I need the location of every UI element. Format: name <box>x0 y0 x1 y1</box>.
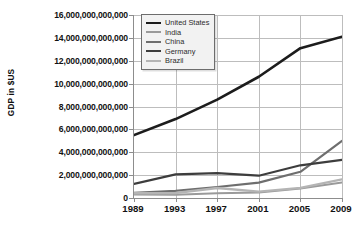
x-tick-label: 1989 <box>122 203 143 214</box>
y-tick-label: 8,000,000,000,000 <box>4 102 128 112</box>
gridline-vertical <box>342 15 343 198</box>
y-tick-label: 16,000,000,000,000 <box>4 10 128 20</box>
legend-label: United States <box>165 18 209 28</box>
y-tick-label: 12,000,000,000,000 <box>4 56 128 66</box>
y-tick-label: 10,000,000,000,000 <box>4 79 128 89</box>
legend-swatch-united-states <box>146 22 161 24</box>
legend-swatch-germany <box>146 50 161 52</box>
x-tick-label: 2009 <box>330 203 351 214</box>
legend-swatch-china <box>146 41 161 43</box>
x-tick-label: 2005 <box>289 203 310 214</box>
legend-item[interactable]: United States <box>146 18 209 28</box>
legend-label: Brazil <box>165 56 183 66</box>
x-tick-label: 2001 <box>247 203 268 214</box>
legend-item[interactable]: Brazil <box>146 56 209 66</box>
legend-label: Germany <box>165 47 195 57</box>
chart-legend: United StatesIndiaChinaGermanyBrazil <box>141 14 215 70</box>
legend-item[interactable]: Germany <box>146 47 209 57</box>
y-axis-tick-labels: 02,000,000,000,0004,000,000,000,0006,000… <box>0 0 128 233</box>
legend-label: China <box>165 37 184 47</box>
y-tick-label: 14,000,000,000,000 <box>4 33 128 43</box>
x-tick-label: 1997 <box>206 203 227 214</box>
y-tick-label: 4,000,000,000,000 <box>4 147 128 157</box>
y-tick-label: 6,000,000,000,000 <box>4 124 128 134</box>
legend-item[interactable]: China <box>146 37 209 47</box>
legend-swatch-india <box>146 31 161 33</box>
legend-label: India <box>165 28 181 38</box>
x-tick-mark <box>342 198 343 202</box>
gdp-line-chart: GDP in $US 02,000,000,000,0004,000,000,0… <box>0 0 364 233</box>
legend-item[interactable]: India <box>146 28 209 38</box>
legend-swatch-brazil <box>146 60 161 62</box>
y-tick-label: 0 <box>4 193 128 203</box>
y-tick-label: 2,000,000,000,000 <box>4 170 128 180</box>
x-tick-label: 1993 <box>164 203 185 214</box>
